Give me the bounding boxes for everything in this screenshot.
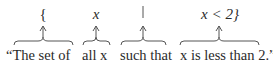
phrase-such-that: such that xyxy=(120,47,172,63)
open-brace-symbol: { xyxy=(37,6,49,22)
phrase-all-x: all x xyxy=(82,47,107,63)
variable-x-symbol: x xyxy=(90,6,102,22)
phrase-the-set-of: “The set of xyxy=(6,47,70,63)
phrase-x-less-than-2: x is less than 2.” xyxy=(180,47,273,63)
condition-symbol: x < 2} xyxy=(196,6,244,22)
